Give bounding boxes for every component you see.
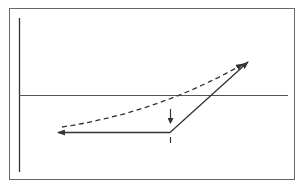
frame: [10, 9, 295, 180]
diagram-canvas: [0, 0, 305, 187]
solid-path-diagonal: [170, 62, 248, 133]
